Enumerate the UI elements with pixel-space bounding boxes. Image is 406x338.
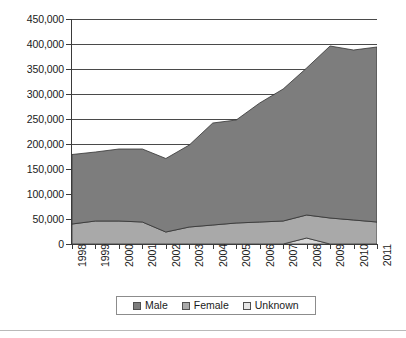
y-tick-label: 350,000 <box>0 64 64 74</box>
x-tick-label-1998: 1998 <box>77 244 88 290</box>
y-tick-mark <box>66 144 71 145</box>
y-tick-mark <box>66 69 71 70</box>
x-tick-mark <box>95 244 96 249</box>
y-tick-label: 250,000 <box>0 114 64 124</box>
x-tick-label-2010: 2010 <box>359 244 370 290</box>
x-tick-label-2001: 2001 <box>147 244 158 290</box>
x-tick-label-2006: 2006 <box>265 244 276 290</box>
y-tick-label: 50,000 <box>0 214 64 224</box>
x-tick-label-2000: 2000 <box>124 244 135 290</box>
x-tick-label-2009: 2009 <box>335 244 346 290</box>
y-tick-mark <box>66 194 71 195</box>
x-tick-mark <box>354 244 355 249</box>
legend-swatch-icon <box>182 302 190 310</box>
x-tick-mark <box>330 244 331 249</box>
x-tick-label-2007: 2007 <box>288 244 299 290</box>
y-tick-mark <box>66 244 71 245</box>
x-tick-mark <box>119 244 120 249</box>
x-tick-mark <box>260 244 261 249</box>
legend-item-male[interactable]: Male <box>133 300 168 311</box>
y-axis-line <box>71 19 72 245</box>
x-tick-label-2002: 2002 <box>171 244 182 290</box>
x-tick-mark <box>142 244 143 249</box>
x-tick-label-1999: 1999 <box>100 244 111 290</box>
x-tick-mark <box>377 244 378 249</box>
area-series-group <box>72 19 377 244</box>
y-tick-mark <box>66 44 71 45</box>
legend-swatch-icon <box>243 302 251 310</box>
x-tick-label-2004: 2004 <box>218 244 229 290</box>
y-tick-label: 200,000 <box>0 139 64 149</box>
x-tick-label-2005: 2005 <box>241 244 252 290</box>
area-series-male <box>72 46 377 232</box>
legend-item-female[interactable]: Female <box>182 300 229 311</box>
x-tick-label-2003: 2003 <box>194 244 205 290</box>
footer-divider <box>0 330 406 331</box>
x-tick-label-2008: 2008 <box>312 244 323 290</box>
legend-label: Female <box>194 300 229 311</box>
chart-legend: MaleFemaleUnknown <box>116 296 316 315</box>
x-tick-mark <box>166 244 167 249</box>
y-tick-mark <box>66 94 71 95</box>
y-tick-label: 100,000 <box>0 189 64 199</box>
y-tick-label: 150,000 <box>0 164 64 174</box>
y-tick-label: 0 <box>0 239 64 249</box>
x-tick-label-2011: 2011 <box>382 244 393 290</box>
legend-swatch-icon <box>133 302 141 310</box>
x-tick-mark <box>307 244 308 249</box>
legend-item-unknown[interactable]: Unknown <box>243 300 299 311</box>
x-tick-mark <box>189 244 190 249</box>
y-tick-label: 300,000 <box>0 89 64 99</box>
y-tick-mark <box>66 119 71 120</box>
x-tick-mark <box>213 244 214 249</box>
y-tick-mark <box>66 169 71 170</box>
y-tick-mark <box>66 19 71 20</box>
legend-label: Unknown <box>255 300 299 311</box>
x-tick-mark <box>236 244 237 249</box>
x-tick-mark <box>72 244 73 249</box>
y-tick-label: 400,000 <box>0 39 64 49</box>
stacked-area-chart: 450,000400,000350,000300,000250,000200,0… <box>0 0 406 338</box>
y-tick-label: 450,000 <box>0 14 64 24</box>
x-tick-mark <box>283 244 284 249</box>
legend-label: Male <box>145 300 168 311</box>
y-tick-mark <box>66 219 71 220</box>
